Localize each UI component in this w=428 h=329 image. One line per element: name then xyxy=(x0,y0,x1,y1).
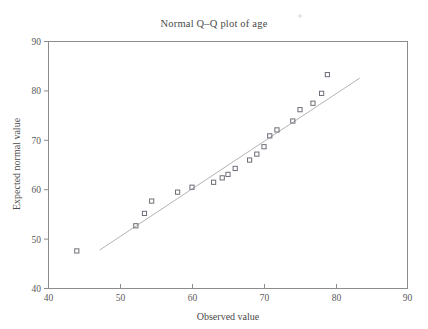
reference-line-segment xyxy=(100,78,360,250)
data-point-marker xyxy=(320,91,324,95)
y-tick-label-50: 50 xyxy=(32,235,42,245)
data-point-series xyxy=(75,72,330,253)
y-tick-label-40: 40 xyxy=(32,284,42,294)
data-point-marker xyxy=(220,176,224,180)
data-point-marker xyxy=(142,211,146,215)
data-point-marker xyxy=(176,190,180,194)
data-point-marker xyxy=(75,249,79,253)
y-tick-label-80: 80 xyxy=(32,86,42,96)
data-point-marker xyxy=(150,199,154,203)
data-point-marker xyxy=(212,180,216,184)
qq-plot-figure: Normal Q–Q plot of age 90 80 70 60 50 40 xyxy=(0,0,428,329)
y-tick-label-60: 60 xyxy=(32,185,42,195)
data-point-marker xyxy=(255,152,259,156)
x-axis-ticks: 40 50 60 70 80 90 xyxy=(44,284,413,303)
data-point-marker xyxy=(298,108,302,112)
x-tick-label-90: 90 xyxy=(403,293,413,303)
y-tick-label-70: 70 xyxy=(32,136,42,146)
scan-speck xyxy=(298,14,302,18)
x-tick-label-60: 60 xyxy=(188,293,198,303)
y-axis-label: Expected normal value xyxy=(11,117,22,210)
plot-canvas: 90 80 70 60 50 40 40 50 60 70 80 90 Obse… xyxy=(0,0,428,329)
data-point-marker xyxy=(311,101,315,105)
x-tick-label-80: 80 xyxy=(332,293,342,303)
x-axis-label: Observed value xyxy=(197,311,260,322)
data-point-marker xyxy=(262,145,266,149)
reference-line xyxy=(100,78,360,250)
data-point-marker xyxy=(233,166,237,170)
data-point-marker xyxy=(226,172,230,176)
x-tick-label-40: 40 xyxy=(44,293,54,303)
x-tick-label-70: 70 xyxy=(260,293,270,303)
x-tick-label-50: 50 xyxy=(116,293,126,303)
y-axis-ticks: 90 80 70 60 50 40 xyxy=(32,37,49,294)
y-tick-label-90: 90 xyxy=(32,37,42,47)
data-point-marker xyxy=(248,158,252,162)
data-point-marker xyxy=(325,72,329,76)
